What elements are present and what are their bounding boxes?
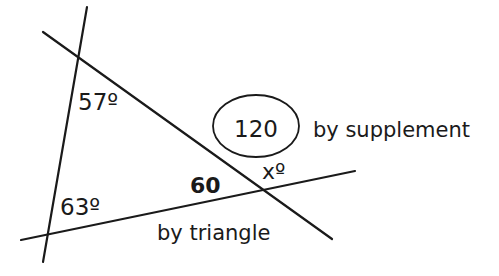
supplement-note: by supplement [313, 118, 470, 142]
angle-60-label: 60 [190, 173, 221, 198]
steep-line [43, 7, 87, 262]
angle-x-label: xº [262, 159, 285, 184]
angle-57-label: 57º [78, 89, 118, 115]
geometry-diagram: 120 57º 63º 60 xº by supplement by trian… [0, 0, 499, 276]
triangle-note: by triangle [157, 221, 270, 245]
angle-63-label: 63º [60, 194, 100, 220]
circled-value-label: 120 [234, 116, 278, 142]
